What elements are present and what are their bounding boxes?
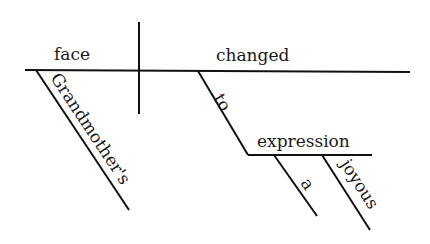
preposition-word: to xyxy=(210,90,236,115)
adjective-modifier-word: joyous xyxy=(336,154,384,213)
baseline xyxy=(25,70,410,72)
preposition-line xyxy=(198,71,248,155)
subject-modifier-word: Grandmother's xyxy=(47,69,135,188)
sentence-diagram: face changed Grandmother's to expression… xyxy=(0,0,430,244)
subject-modifier-line xyxy=(36,70,129,210)
verb-word: changed xyxy=(216,45,289,65)
subject-word: face xyxy=(54,44,90,64)
prepositional-object-word: expression xyxy=(257,131,350,151)
